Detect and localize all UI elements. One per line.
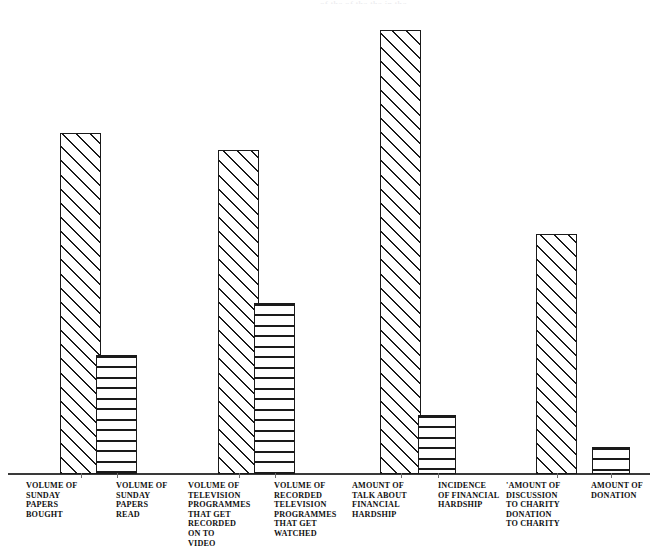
bar-label-1: VOLUME OF SUNDAY PAPERS BOUGHT [26,481,96,519]
bar-1 [60,133,101,474]
bar-label-2: VOLUME OF SUNDAY PAPERS READ [116,481,186,519]
axis-tick-4 [275,473,276,478]
axis-tick-2 [117,473,118,478]
cut-off-header-text: of the of the the in the [320,0,620,4]
bar-4 [254,303,295,474]
bar-6 [418,415,456,474]
bar-2 [96,355,137,474]
bar-label-3: VOLUME OF TELEVISION PROGRAMMES THAT GET… [188,481,262,548]
bar-label-6: INCIDENCE OF FINANCIAL HARDSHIP [438,481,512,510]
bar-label-8: AMOUNT OF DONATION [591,481,658,500]
bar-8 [592,447,630,474]
bar-5 [380,30,421,474]
axis-tick-5 [401,473,402,478]
bar-label-5: AMOUNT OF TALK ABOUT FINANCIAL HARDSHIP [352,481,426,519]
axis-tick-3 [239,473,240,478]
bar-3 [218,150,259,474]
axis-tick-8 [611,473,612,478]
axis-tick-7 [557,473,558,478]
bar-7 [536,234,577,474]
bar-label-7: 'AMOUNT OF DISCUSSION TO CHARITY DONATIO… [506,481,578,529]
bar-chart-figure: of the of the the in the VOLUME OF SUNDA… [0,0,658,551]
bar-label-4: VOLUME OF RECORDED TELEVISION PROGRAMMES… [274,481,348,539]
axis-tick-1 [81,473,82,478]
axis-tick-6 [438,473,439,478]
